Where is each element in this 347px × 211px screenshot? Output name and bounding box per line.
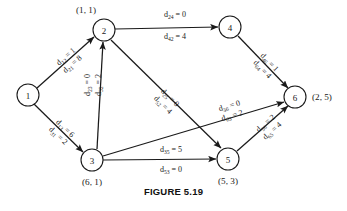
edge-2-4-forward-label: d24 = 0 xyxy=(146,10,200,20)
edge-2-4-line xyxy=(115,27,218,29)
edge-3-5-reverse-label: d53 = 0 xyxy=(142,165,196,175)
node-6-pair-label: (2, 5) xyxy=(312,92,332,102)
node-5[interactable]: 5 xyxy=(217,148,239,170)
edge-3-5-line xyxy=(103,159,216,160)
node-6-label: 6 xyxy=(293,93,298,103)
edge-2-3-reverse-label: d32 = 2 xyxy=(94,56,104,118)
node-4[interactable]: 4 xyxy=(219,16,241,38)
node-5-pair-label: (5, 3) xyxy=(218,176,238,186)
node-3-label: 3 xyxy=(90,156,95,166)
node-5-label: 5 xyxy=(226,155,231,165)
node-2[interactable]: 2 xyxy=(93,19,115,41)
node-1-label: 1 xyxy=(26,91,31,101)
edge-3-5-forward-label: d35 = 5 xyxy=(142,145,196,155)
edge-labels-layer: d12 = 1 d21 = 8 d13 = 6 d31 = 2 d23 = 0 xyxy=(31,10,297,175)
figure-container: d12 = 1 d21 = 8 d13 = 6 d31 = 2 d23 = 0 xyxy=(0,0,347,211)
edge-2-3-forward-label: d23 = 0 xyxy=(83,56,93,118)
figure-caption: FIGURE 5.19 xyxy=(0,186,347,197)
node-1[interactable]: 1 xyxy=(17,84,39,106)
node-2-label: 2 xyxy=(102,26,107,36)
node-4-label: 4 xyxy=(228,23,233,33)
edge-2-4-reverse-label: d42 = 4 xyxy=(146,32,200,42)
graph-canvas: d12 = 1 d21 = 8 d13 = 6 d31 = 2 d23 = 0 xyxy=(0,0,347,211)
node-3[interactable]: 3 xyxy=(81,149,103,171)
node-6[interactable]: 6 xyxy=(284,86,306,108)
node-2-pair-label: (1, 1) xyxy=(76,5,96,15)
